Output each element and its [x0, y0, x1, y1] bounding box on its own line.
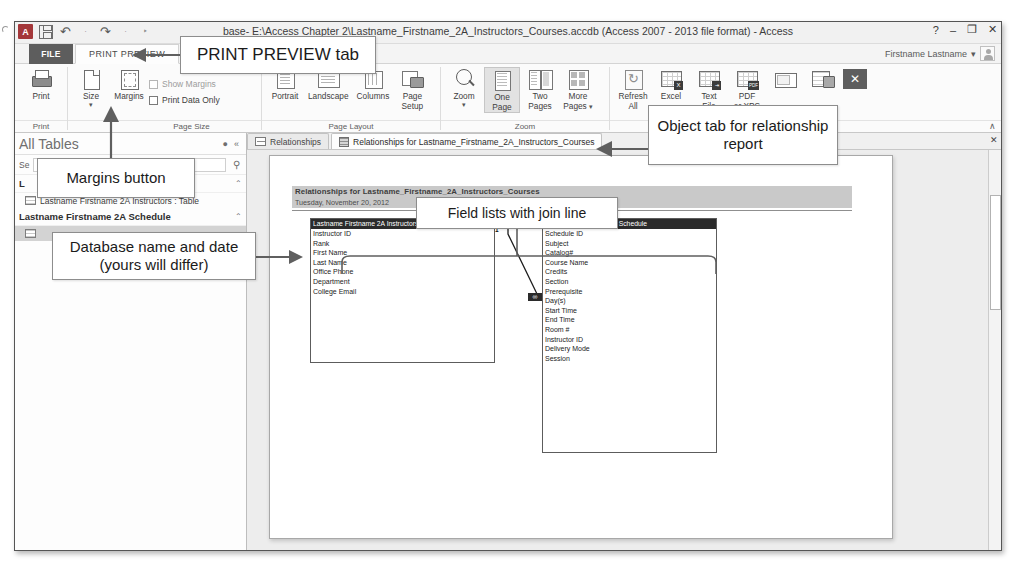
report-title: Relationships for Lastname_Firstname_2A_… [295, 187, 540, 196]
refresh-all-button[interactable]: Refresh All [615, 67, 651, 111]
email-export-button[interactable] [767, 67, 803, 91]
show-margins-label: Show Margins [162, 79, 216, 89]
excel-export-button-label: Excel [661, 92, 681, 101]
more-pages-button-label: More [569, 92, 588, 101]
join-many-side-label: ∞ [528, 293, 542, 301]
close-button[interactable]: ✕ [988, 23, 997, 36]
chevron-down-icon[interactable]: ▾ [462, 102, 466, 107]
tab-relationships[interactable]: Relationships [247, 133, 329, 149]
excel-export-button[interactable]: X Excel [653, 67, 689, 101]
more-pages-button[interactable]: More Pages ▾ [560, 67, 596, 111]
two-pages-icon [527, 67, 553, 91]
one-page-button-label2: Page [492, 103, 511, 112]
restore-button[interactable]: ❐ [967, 23, 977, 36]
close-print-preview-button[interactable]: ✕ [843, 69, 867, 89]
callout-margins-button: Margins button [37, 158, 195, 198]
relationships-icon [255, 137, 266, 146]
nav-group-label: Lastname Firstname 2A Schedule [19, 211, 171, 222]
chevron-down-icon[interactable]: ▾ [971, 49, 976, 59]
text-file-badge: ⇥ [712, 81, 721, 90]
two-pages-button[interactable]: Two Pages [522, 67, 558, 111]
chevron-up-icon[interactable]: ⌃ [235, 212, 242, 221]
table-icon [25, 196, 36, 205]
field-row[interactable]: Start Time [543, 306, 716, 316]
close-document-icon[interactable]: ✕ [990, 135, 998, 145]
callout-leader-database-name [255, 246, 303, 268]
ribbon-group-page-size: Size ▾ Margins Show Margins [68, 64, 261, 132]
search-label: Se [19, 160, 29, 170]
minimize-button[interactable]: – [950, 24, 956, 36]
ribbon-print-preview: Print Print Size ▾ Margins [15, 64, 1001, 133]
ribbon-group-print: Print Print [15, 64, 67, 132]
tab-relationship-report[interactable]: Relationships for Lastname_Firstname_2A_… [331, 133, 602, 149]
field-row[interactable]: Session [543, 354, 716, 364]
zoom-button[interactable]: Zoom ▾ [446, 67, 482, 107]
search-icon[interactable]: ⚲ [230, 159, 242, 170]
more-export-icon [810, 67, 836, 91]
email-export-icon [772, 67, 798, 91]
show-margins-checkbox[interactable]: Show Margins [149, 79, 220, 89]
page-setup-button-label2: Setup [402, 102, 424, 111]
checkbox-box [149, 80, 158, 89]
refresh-all-button-label2: All [628, 102, 637, 111]
table-icon [25, 229, 36, 238]
field-row[interactable]: End Time [543, 315, 716, 325]
one-page-button[interactable]: One Page [484, 67, 520, 113]
field-row[interactable]: Room # [543, 325, 716, 335]
checkbox-box [149, 96, 158, 105]
pdf-xps-export-button-label: PDF [739, 92, 756, 101]
page-curl-mark [2, 26, 9, 33]
tab-label: Relationships [270, 137, 321, 147]
more-export-button[interactable] [805, 67, 841, 91]
scrollbar-thumb[interactable] [990, 195, 1001, 310]
print-preview-surface[interactable]: Relationships for Lastname_Firstname_2A_… [247, 133, 1001, 550]
chevron-down-icon[interactable]: ▾ [89, 102, 93, 107]
print-button[interactable]: Print [23, 67, 59, 101]
field-row[interactable]: Day(s) [543, 296, 716, 306]
margins-button[interactable]: Margins [111, 67, 147, 101]
print-data-only-checkbox[interactable]: Print Data Only [149, 95, 220, 105]
field-row[interactable]: Delivery Mode [543, 344, 716, 354]
page-setup-button-label: Page [403, 92, 422, 101]
refresh-icon [620, 67, 646, 91]
callout-print-preview-tab: PRINT PREVIEW tab [180, 36, 376, 74]
excel-badge: X [674, 81, 683, 90]
chevron-down-icon[interactable]: ▾ [589, 104, 593, 109]
print-button-label: Print [32, 92, 49, 101]
window-controls[interactable]: ? – ❐ ✕ [933, 23, 997, 36]
callout-field-lists: Field lists with join line [416, 197, 618, 229]
group-label-page-size: Page Size [68, 120, 261, 132]
portrait-button-label: Portrait [272, 92, 299, 101]
nav-group-label: L [19, 178, 25, 189]
callout-leader-margins [100, 104, 122, 162]
title-bar: A ↶ · ↷ · ‣ base- E:\Access Chapter 2\La… [15, 22, 1001, 44]
field-row[interactable]: Instructor ID [543, 335, 716, 345]
one-page-icon [489, 68, 515, 92]
callout-leader-object-tab [596, 138, 654, 160]
magnifier-icon [451, 67, 477, 91]
refresh-all-button-label: Refresh [618, 92, 647, 101]
margins-button-label: Margins [114, 92, 144, 101]
size-button[interactable]: Size ▾ [73, 67, 109, 107]
navigation-options-icon[interactable]: ● [220, 139, 231, 149]
callout-leader-print-preview [132, 44, 186, 66]
size-button-label: Size [83, 92, 99, 101]
avatar[interactable] [980, 46, 995, 61]
text-file-export-icon: ⇥ [696, 67, 722, 91]
pdf-badge: PDF [748, 81, 759, 90]
page-setup-button[interactable]: Page Setup [394, 67, 430, 111]
help-button[interactable]: ? [933, 24, 939, 36]
user-account-area[interactable]: Firstname Lastname ▾ [885, 46, 995, 61]
chevron-up-icon[interactable]: ⌃ [235, 179, 242, 188]
report-icon [339, 137, 349, 147]
collapse-pane-icon[interactable]: « [231, 139, 242, 149]
tab-file[interactable]: FILE [29, 44, 73, 64]
excel-export-icon: X [658, 67, 684, 91]
nav-group-schedule[interactable]: Lastname Firstname 2A Schedule ⌃ [15, 208, 246, 226]
more-pages-icon [565, 67, 591, 91]
group-label-zoom: Zoom [441, 120, 609, 132]
vertical-scrollbar[interactable]: ▴ [988, 133, 1001, 550]
collapse-ribbon-icon[interactable]: ∧ [989, 121, 996, 131]
tab-label: Relationships for Lastname_Firstname_2A_… [353, 137, 594, 147]
text-file-export-button-label: Text [701, 92, 716, 101]
